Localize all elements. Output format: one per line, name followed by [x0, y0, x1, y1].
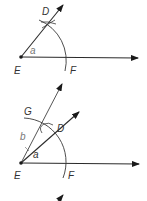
construction-diagram: D a E F G b a D E F: [0, 0, 147, 201]
ray-EF: [21, 163, 139, 164]
ray-EF: [21, 57, 138, 58]
label-E: E: [14, 170, 21, 181]
label-angle-b: b: [20, 131, 26, 142]
step-3-partial: [58, 195, 63, 201]
label-angle-a: a: [30, 45, 36, 56]
label-F: F: [68, 170, 75, 181]
partial-ray: [58, 195, 63, 201]
ray-EG: [21, 84, 62, 163]
label-F: F: [70, 65, 77, 76]
label-G: G: [24, 106, 32, 117]
cross-mark-D: [41, 20, 56, 28]
step-1-diagram: D a E F: [14, 5, 138, 76]
vertex-E-dot: [19, 161, 23, 165]
step-2-diagram: G b a D E F: [14, 84, 139, 181]
ray-ED: [21, 112, 79, 163]
label-E: E: [14, 65, 21, 76]
label-D: D: [57, 123, 64, 134]
small-arc-at-D: [40, 123, 53, 133]
label-D: D: [42, 6, 49, 17]
vertex-E-dot: [19, 55, 23, 59]
label-angle-a: a: [33, 149, 39, 160]
